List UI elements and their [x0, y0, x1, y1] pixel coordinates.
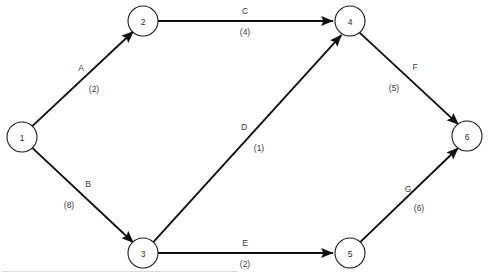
diagram-canvas: A (2) B (8) C (4) D (1) E (2)	[0, 0, 492, 276]
edge-a-line	[32, 31, 133, 126]
edge-c: C (4)	[158, 6, 333, 37]
node-1[interactable]: 1	[7, 122, 37, 152]
edge-c-label: C	[242, 6, 248, 16]
node-5[interactable]: 5	[335, 238, 365, 268]
node-6-label: 6	[465, 132, 470, 142]
edge-f-line	[360, 33, 459, 125]
node-2[interactable]: 2	[128, 6, 158, 36]
node-4[interactable]: 4	[335, 6, 365, 36]
edge-f-weight: (5)	[389, 83, 400, 93]
edge-b-weight: (8)	[64, 200, 75, 210]
node-4-label: 4	[348, 17, 353, 27]
edge-a: A (2)	[32, 31, 133, 126]
edge-b-line	[32, 148, 133, 243]
edge-a-label: A	[78, 63, 84, 73]
edge-g-line	[360, 148, 458, 242]
node-5-label: 5	[348, 249, 353, 259]
edge-d-label: D	[241, 122, 247, 132]
edge-d-line	[153, 35, 341, 242]
edge-c-weight: (4)	[240, 27, 251, 37]
node-3-label: 3	[141, 249, 146, 259]
edge-a-weight: (2)	[89, 84, 100, 94]
edge-b-label: B	[85, 179, 91, 189]
edge-g-weight: (6)	[414, 203, 425, 213]
edge-f: F (5)	[360, 33, 459, 125]
edge-e-label: E	[242, 238, 248, 248]
edge-f-label: F	[412, 62, 417, 72]
edge-e: E (2)	[158, 238, 333, 269]
edge-g: G (6)	[360, 148, 458, 242]
node-1-label: 1	[20, 133, 25, 143]
node-2-label: 2	[141, 17, 146, 27]
edge-b: B (8)	[32, 148, 133, 243]
edge-d-weight: (1)	[254, 143, 265, 153]
edge-e-weight: (2)	[240, 259, 251, 269]
edge-g-label: G	[405, 184, 412, 194]
network-diagram: A (2) B (8) C (4) D (1) E (2)	[0, 0, 492, 276]
edge-d: D (1)	[153, 35, 341, 242]
node-6[interactable]: 6	[452, 121, 482, 151]
node-3[interactable]: 3	[128, 238, 158, 268]
